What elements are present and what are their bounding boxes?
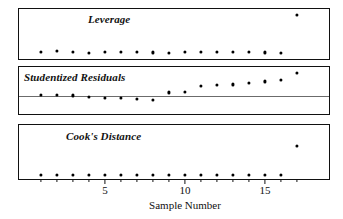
zero-reference-line bbox=[19, 96, 329, 97]
x-axis-title: Sample Number bbox=[149, 199, 221, 211]
x-tick-label-15: 15 bbox=[260, 184, 271, 196]
panel-studentized-residuals-label: Studentized Residuals bbox=[24, 71, 125, 83]
x-axis-tick bbox=[56, 179, 57, 182]
x-axis-tick bbox=[200, 179, 201, 182]
panel-leverage-label: Leverage bbox=[88, 13, 130, 25]
panel-cooks-distance bbox=[18, 124, 330, 180]
x-axis-tick bbox=[136, 179, 137, 182]
x-axis-tick bbox=[280, 179, 281, 182]
x-axis-tick bbox=[216, 179, 217, 182]
x-tick-label-5: 5 bbox=[102, 184, 108, 196]
x-axis-tick bbox=[72, 179, 73, 182]
x-axis-tick bbox=[88, 179, 89, 182]
x-axis-tick bbox=[232, 179, 233, 182]
x-axis-tick bbox=[120, 179, 121, 182]
x-axis-tick bbox=[40, 179, 41, 182]
x-axis-tick bbox=[248, 179, 249, 182]
diagnostic-plot-figure: Leverage Studentized Residuals Cook's Di… bbox=[0, 0, 343, 219]
x-axis-tick bbox=[296, 179, 297, 182]
x-axis-tick bbox=[152, 179, 153, 182]
panel-cooks-distance-label: Cook's Distance bbox=[66, 130, 141, 142]
x-axis-tick bbox=[168, 179, 169, 182]
panel-leverage bbox=[18, 8, 330, 60]
x-axis-line bbox=[18, 179, 330, 181]
x-tick-label-10: 10 bbox=[180, 184, 191, 196]
